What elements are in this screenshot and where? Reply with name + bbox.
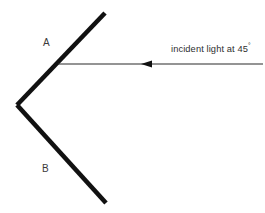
mirror-arm-a xyxy=(17,13,105,105)
mirror-arm-b xyxy=(17,105,106,203)
incident-ray-arrowhead-icon xyxy=(141,60,152,67)
mirror-reflection-diagram: A B incident light at 45° xyxy=(0,0,265,213)
incident-ray-label-text: incident light at 45 xyxy=(171,44,248,54)
mirror-label-b: B xyxy=(42,164,49,174)
mirror-label-a: A xyxy=(43,38,50,48)
degree-symbol-icon: ° xyxy=(248,42,251,49)
incident-ray-label: incident light at 45° xyxy=(171,45,251,54)
diagram-canvas xyxy=(0,0,265,213)
